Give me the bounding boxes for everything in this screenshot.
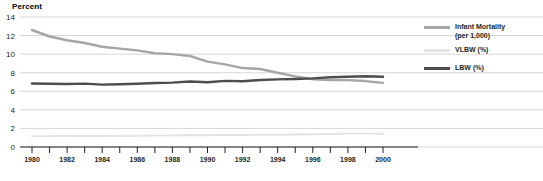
x-tick-label: 1996 xyxy=(305,156,321,163)
y-tick-label: 0 xyxy=(11,143,16,152)
x-tick-label: 1986 xyxy=(130,156,146,163)
y-tick-label: 12 xyxy=(6,32,15,41)
legend-swatch-infant-mortality xyxy=(424,26,450,29)
chart-container: Percent 02468101214198019821984198619881… xyxy=(0,0,543,181)
y-tick-label: 6 xyxy=(11,87,16,96)
legend-swatch-lbw xyxy=(424,67,450,70)
legend-item-lbw: LBW (%) xyxy=(424,63,484,72)
y-tick-label: 14 xyxy=(6,13,15,22)
y-tick-label: 8 xyxy=(11,69,16,78)
legend-label-vlbw: VLBW (%) xyxy=(455,45,488,54)
x-tick-label: 1980 xyxy=(24,156,40,163)
series-line xyxy=(32,134,383,137)
chart-legend: Infant Mortality (per 1,000) VLBW (%) LB… xyxy=(424,22,543,82)
x-tick-label: 1984 xyxy=(94,156,110,163)
legend-item-vlbw: VLBW (%) xyxy=(424,45,488,54)
x-tick-label: 1994 xyxy=(270,156,286,163)
x-tick-label: 1990 xyxy=(200,156,216,163)
legend-label-infant-mortality: Infant Mortality (per 1,000) xyxy=(455,22,505,40)
legend-item-infant-mortality: Infant Mortality (per 1,000) xyxy=(424,22,505,40)
y-tick-label: 10 xyxy=(6,50,15,59)
x-tick-label: 1992 xyxy=(235,156,251,163)
y-tick-label: 4 xyxy=(11,106,16,115)
x-tick-label: 1998 xyxy=(340,156,356,163)
x-tick-label: 2000 xyxy=(375,156,391,163)
y-tick-label: 2 xyxy=(11,124,16,133)
x-tick-label: 1988 xyxy=(165,156,181,163)
legend-label-lbw: LBW (%) xyxy=(455,63,484,72)
legend-swatch-vlbw xyxy=(424,49,450,52)
series-line xyxy=(32,30,383,83)
x-tick-label: 1982 xyxy=(59,156,75,163)
